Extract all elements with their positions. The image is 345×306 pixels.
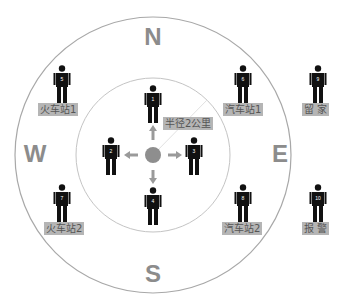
compass-south: S <box>145 262 161 286</box>
label-radius: 半径2公里 <box>163 117 213 130</box>
person-number: 6 <box>234 76 252 82</box>
person-icon <box>53 65 71 103</box>
label-train-station-1: 火车站1 <box>38 103 78 116</box>
person-1: 1 <box>144 85 162 123</box>
person-2: 2 <box>102 137 120 175</box>
person-number: 10 <box>309 195 327 201</box>
label-report-police: 报 警 <box>302 222 329 235</box>
person-number: 2 <box>102 148 120 154</box>
person-icon <box>234 184 252 222</box>
person-icon <box>144 85 162 123</box>
person-10: 10 <box>309 184 327 222</box>
person-icon <box>234 65 252 103</box>
person-number: 5 <box>53 76 71 82</box>
person-9: 9 <box>309 65 327 103</box>
person-icon <box>309 65 327 103</box>
person-number: 7 <box>53 195 71 201</box>
person-number: 1 <box>144 96 162 102</box>
person-icon <box>144 187 162 225</box>
person-number: 4 <box>144 198 162 204</box>
label-bus-station-1: 汽车站1 <box>223 103 263 116</box>
person-8: 8 <box>234 184 252 222</box>
person-number: 9 <box>309 76 327 82</box>
person-icon <box>185 137 203 175</box>
person-icon <box>53 184 71 222</box>
label-bus-station-2: 汽车站2 <box>222 222 262 235</box>
person-7: 7 <box>53 184 71 222</box>
person-5: 5 <box>53 65 71 103</box>
center-dot <box>145 147 161 163</box>
compass-north: N <box>144 25 161 49</box>
compass-diagram <box>0 0 345 306</box>
person-4: 4 <box>144 187 162 225</box>
person-6: 6 <box>234 65 252 103</box>
person-number: 8 <box>234 195 252 201</box>
label-stay-home: 留 家 <box>302 103 329 116</box>
person-number: 3 <box>185 148 203 154</box>
compass-west: W <box>24 142 47 166</box>
person-3: 3 <box>185 137 203 175</box>
label-train-station-2: 火车站2 <box>44 222 84 235</box>
person-icon <box>309 184 327 222</box>
person-icon <box>102 137 120 175</box>
compass-east: E <box>272 142 288 166</box>
